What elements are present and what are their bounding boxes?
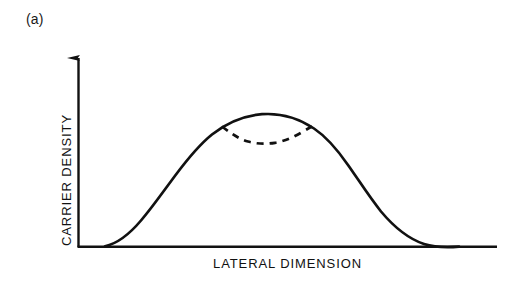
x-axis-label: LATERAL DIMENSION: [78, 256, 497, 271]
figure-panel-a: (a) CARRIER DENSITY LATERAL DIMENSION: [0, 0, 514, 291]
y-axis-label: CARRIER DENSITY: [59, 46, 74, 246]
carrier-density-solid-curve: [105, 114, 459, 247]
plot-canvas: [0, 0, 514, 291]
carrier-density-dashed-curve: [222, 125, 315, 143]
